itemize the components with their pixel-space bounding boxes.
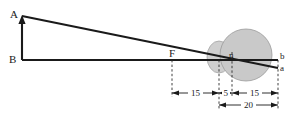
dimension-arrowhead-right-1 xyxy=(212,91,219,96)
dimension-arrowhead-right-4 xyxy=(271,103,278,108)
eye-globe-shape xyxy=(220,29,272,81)
dimension-label-15-left: 15 xyxy=(191,88,201,98)
point-label-B: B xyxy=(9,53,16,65)
dimension-arrowhead-left-1 xyxy=(172,91,179,96)
point-label-b: b xyxy=(280,51,285,61)
point-label-A: A xyxy=(10,8,18,20)
dimension-label-5: 5 xyxy=(224,88,229,98)
dimension-arrowhead-left-4 xyxy=(219,103,226,108)
point-label-F: F xyxy=(169,47,175,59)
point-label-a: a xyxy=(280,63,284,73)
dimension-arrowhead-right-3 xyxy=(271,91,278,96)
diagram-canvas: 15 5 15 20 A B F n b a xyxy=(0,0,292,119)
point-label-n: n xyxy=(229,50,234,60)
dimension-label-20: 20 xyxy=(244,100,254,110)
dimension-label-15-right: 15 xyxy=(250,88,260,98)
dimension-arrowhead-left-3 xyxy=(232,91,239,96)
optics-diagram: 15 5 15 20 A B F n b a xyxy=(0,0,292,119)
